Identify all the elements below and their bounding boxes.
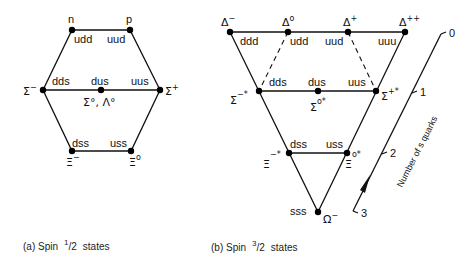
- node-delta-plusplus: [402, 29, 408, 35]
- node-xi-zero-star: [344, 150, 350, 156]
- label-xi-zero: Ξo: [129, 153, 141, 169]
- node-sigma-plus: [157, 87, 163, 93]
- quark-dus: dus: [308, 76, 326, 88]
- axis-title: Number of s quarks: [395, 114, 440, 189]
- label-sigma0-lambda0: Σ°, Λ°: [83, 96, 115, 109]
- label-delta-minus: Δ−: [221, 14, 235, 29]
- label-omega-minus: Ω−: [323, 211, 338, 226]
- decuplet-diagram: Δ− Δo Δ+ Δ++ Σ−* Σo* Σ+* Ξ−* Ξo* Ω− ddd …: [221, 14, 420, 226]
- label-delta-zero: Δo: [282, 14, 295, 29]
- quark-uud: uud: [325, 35, 343, 47]
- caption-b: (b) Spin3/2states: [211, 239, 298, 253]
- quark-dus: dus: [91, 75, 109, 87]
- node-delta-plus: [345, 29, 351, 35]
- arrow-down-icon: [360, 175, 370, 193]
- label-sigma-minus: Σ−: [23, 83, 37, 98]
- node-xi-minus-star: [286, 150, 292, 156]
- node-sigma-minus-star: [256, 88, 262, 94]
- caption-a: (a) Spin1/2states: [23, 238, 110, 252]
- node-sigma-zero-star: [315, 88, 321, 94]
- label-sigma-plus-star: Σ+*: [381, 87, 399, 103]
- label-delta-plus: Δ+: [343, 14, 357, 29]
- tick-0: [441, 32, 446, 34]
- quark-dds: dds: [269, 76, 287, 88]
- baryon-multiplet-diagram: n p Σ− Σ+ Σ°, Λ° Ξ− Ξo udd uud dds dus u…: [0, 0, 468, 272]
- quark-udd: udd: [290, 35, 308, 47]
- node-sigma0-lambda0: [98, 87, 104, 93]
- label-delta-plusplus: Δ++: [399, 14, 420, 29]
- quark-uus: uus: [348, 76, 366, 88]
- tick-label-1: 1: [420, 86, 426, 98]
- strangeness-axis: 0 1 2 3 Number of s quarks: [353, 27, 455, 219]
- node-proton: [127, 27, 133, 33]
- label-sigma-minus-star: Σ−*: [230, 90, 248, 107]
- decuplet-triangle: [230, 32, 405, 212]
- quark-sss: sss: [290, 205, 307, 217]
- quark-udd: udd: [74, 33, 92, 45]
- node-sigma-minus: [40, 87, 46, 93]
- tick-label-3: 3: [361, 207, 367, 219]
- label-xi-minus: Ξ−: [66, 153, 80, 169]
- quark-uss: uss: [110, 137, 128, 149]
- label-neutron: n: [68, 13, 74, 25]
- tick-label-0: 0: [449, 27, 455, 39]
- label-proton: p: [126, 13, 132, 25]
- quark-dss: dss: [72, 137, 90, 149]
- quark-ddd: ddd: [240, 35, 258, 47]
- quark-dss: dss: [290, 138, 308, 150]
- node-delta-minus: [227, 29, 233, 35]
- octet-diagram: n p Σ− Σ+ Σ°, Λ° Ξ− Ξo udd uud dds dus u…: [23, 13, 179, 169]
- quark-uss: uss: [326, 138, 344, 150]
- label-xi-minus-star: Ξ−*: [263, 150, 281, 171]
- node-sigma-plus-star: [373, 88, 379, 94]
- node-xi-zero: [128, 148, 134, 154]
- label-sigma-zero-star: Σo*: [310, 97, 326, 114]
- quark-uus: uus: [131, 75, 149, 87]
- quark-uud: uud: [107, 33, 125, 45]
- quark-uuu: uuu: [378, 35, 396, 47]
- tick-label-2: 2: [390, 147, 396, 159]
- tick-3: [353, 211, 358, 213]
- quark-dds: dds: [52, 75, 70, 87]
- label-sigma-plus: Σ+: [165, 83, 179, 98]
- node-omega-minus: [315, 209, 321, 215]
